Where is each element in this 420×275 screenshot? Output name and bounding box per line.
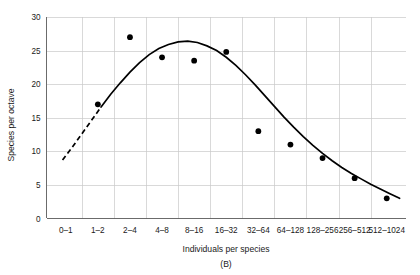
y-axis-tick-label: 0 bbox=[36, 215, 41, 224]
data-point bbox=[95, 101, 101, 107]
data-point bbox=[255, 128, 261, 134]
y-axis-tick-label: 15 bbox=[31, 114, 41, 123]
data-point bbox=[320, 155, 326, 161]
data-point bbox=[352, 175, 358, 181]
x-axis-tick-label: 2–4 bbox=[123, 226, 137, 235]
chart-figure: 051015202530 0–11–22–44–88–1616–3232–646… bbox=[0, 0, 420, 275]
data-point bbox=[223, 49, 229, 55]
x-axis-tick-label: 256–512 bbox=[339, 226, 371, 235]
data-point bbox=[127, 34, 133, 40]
data-point bbox=[384, 195, 390, 201]
x-axis-tick-label: 16–32 bbox=[215, 226, 238, 235]
data-point bbox=[191, 58, 197, 64]
y-axis-title: Species per octave bbox=[6, 88, 16, 161]
data-point bbox=[159, 54, 165, 60]
y-axis-tick-label: 5 bbox=[36, 181, 41, 190]
x-axis-tick-label: 8–16 bbox=[185, 226, 204, 235]
panel-label: (B) bbox=[220, 259, 232, 269]
x-axis-tick-label: 0–1 bbox=[59, 226, 73, 235]
y-axis-tick-label: 10 bbox=[31, 147, 41, 156]
x-axis-tick-label: 128–256 bbox=[307, 226, 339, 235]
x-axis-tick-label: 4–8 bbox=[155, 226, 169, 235]
x-axis-tick-label: 64–128 bbox=[277, 226, 305, 235]
x-axis-tick-label: 1–2 bbox=[91, 226, 105, 235]
y-axis-tick-label: 30 bbox=[31, 13, 41, 22]
x-axis-tick-label: 32–64 bbox=[247, 226, 270, 235]
y-axis-tick-label: 20 bbox=[31, 80, 41, 89]
x-axis-title: Individuals per species bbox=[183, 244, 270, 254]
x-axis-tick-label: 512–1024 bbox=[369, 226, 406, 235]
y-axis-tick-label: 25 bbox=[31, 47, 41, 56]
data-point bbox=[288, 142, 294, 148]
species-abundance-chart: 051015202530 0–11–22–44–88–1616–3232–646… bbox=[0, 0, 420, 275]
